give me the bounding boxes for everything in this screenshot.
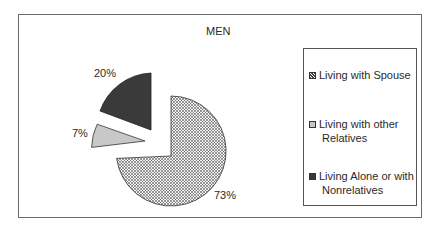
- label-73-percent: 73%: [214, 189, 236, 201]
- legend-item-other-relatives: Living with other Relatives: [309, 117, 399, 145]
- slice-living-alone: [100, 73, 151, 130]
- legend-item-alone: Living Alone or with Nonrelatives: [309, 169, 414, 197]
- dark-swatch-icon: [309, 173, 316, 180]
- label-20-percent: 20%: [94, 67, 116, 79]
- light-swatch-icon: [309, 121, 316, 128]
- label-7-percent: 7%: [72, 127, 88, 139]
- legend-item-spouse: Living with Spouse: [309, 68, 411, 82]
- legend: Living with Spouse Living with other Rel…: [303, 48, 417, 206]
- slice-living-with-other-relatives: [92, 124, 145, 147]
- hatch-swatch-icon: [309, 72, 316, 79]
